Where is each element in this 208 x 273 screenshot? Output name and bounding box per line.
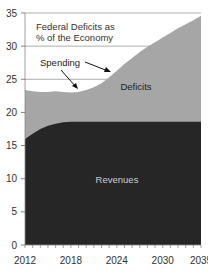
x-tick-label: 2012 (14, 255, 37, 266)
x-tick-label: 2035 (190, 255, 208, 266)
chart-title-line-2: % of the Economy (36, 32, 113, 43)
chart-title-line-1: Federal Deficits as (36, 21, 115, 32)
deficits-label: Deficits (120, 81, 151, 92)
spending-arrow-1 (61, 70, 76, 87)
revenues-label: Revenues (96, 174, 139, 185)
x-axis-labels: 20122018202420302035 (14, 255, 208, 266)
deficit-area-chart: Federal Deficits as % of the Economy Spe… (0, 0, 208, 273)
y-tick-label: 0 (11, 240, 17, 251)
x-tick-label: 2024 (106, 255, 129, 266)
x-tick-label: 2030 (152, 255, 175, 266)
arrowhead-2-icon (104, 67, 111, 72)
y-tick-label: 10 (6, 173, 18, 184)
y-tick-label: 15 (6, 140, 18, 151)
spending-annotation: Spending (40, 57, 80, 68)
y-tick-label: 25 (6, 74, 18, 85)
y-tick-label: 30 (6, 41, 18, 52)
y-tick-label: 35 (6, 8, 18, 19)
x-tick-label: 2018 (60, 255, 83, 266)
y-tick-label: 20 (6, 107, 18, 118)
spending-arrow-2 (85, 62, 108, 71)
y-tick-label: 5 (11, 206, 17, 217)
y-axis-labels: 05101520253035 (6, 8, 18, 251)
